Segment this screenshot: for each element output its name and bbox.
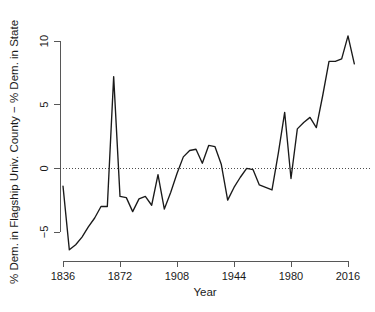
y-tick-label: 10 <box>38 35 50 47</box>
y-tick-label: 0 <box>38 165 50 171</box>
x-tick-label: 1872 <box>108 270 132 282</box>
y-tick-labels: 1050−5 <box>38 35 50 238</box>
y-axis-title: % Dem. in Flagship Univ. County − % Dem.… <box>8 20 20 284</box>
y-tick-label: −5 <box>38 226 50 239</box>
x-tick-label: 2016 <box>336 270 360 282</box>
chart-figure: 1050−5 183618721908194419802016 % Dem. i… <box>0 0 375 312</box>
x-tick-label: 1980 <box>279 270 303 282</box>
x-tick-label: 1908 <box>165 270 189 282</box>
y-tick-label: 5 <box>38 102 50 108</box>
x-tick-label: 1944 <box>222 270 246 282</box>
line-chart-canvas: 1050−5 183618721908194419802016 % Dem. i… <box>0 0 375 312</box>
x-tick-marks <box>63 261 348 267</box>
data-series-line <box>63 36 354 250</box>
x-axis-title: Year <box>193 286 216 298</box>
x-tick-label: 1836 <box>51 270 75 282</box>
x-tick-labels: 183618721908194419802016 <box>51 270 360 282</box>
y-tick-marks <box>54 41 60 232</box>
